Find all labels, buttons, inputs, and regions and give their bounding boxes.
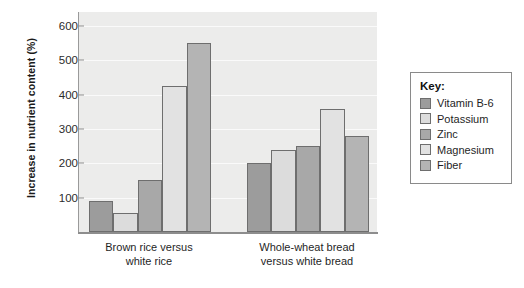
bar xyxy=(271,150,295,233)
y-tick-label: 100 xyxy=(59,192,78,204)
legend-swatch xyxy=(420,98,431,109)
legend-item: Magnesium xyxy=(420,144,503,156)
legend-item: Potassium xyxy=(420,113,503,125)
bar xyxy=(320,109,344,232)
y-tick-label: 200 xyxy=(59,157,78,169)
y-tick-label: 400 xyxy=(59,89,78,101)
chart-root: Increase in nutrient content (%) 1002003… xyxy=(0,0,524,288)
x-axis-group-label-line: versus white bread xyxy=(227,254,387,268)
gridline xyxy=(79,60,377,61)
bar xyxy=(247,163,271,232)
legend-title: Key: xyxy=(420,80,503,92)
bar xyxy=(187,43,211,232)
bar xyxy=(138,180,162,232)
legend-swatch xyxy=(420,144,431,155)
bar xyxy=(345,136,369,232)
legend-swatch xyxy=(420,129,431,140)
gridline xyxy=(79,26,377,27)
y-tick-label: 500 xyxy=(59,54,78,66)
bar xyxy=(89,201,113,232)
y-tick-mark xyxy=(78,197,84,198)
legend-label: Vitamin B-6 xyxy=(437,97,494,109)
y-tick-mark xyxy=(78,163,84,164)
legend-item: Vitamin B-6 xyxy=(420,97,503,109)
legend-item: Fiber xyxy=(420,159,503,171)
legend-label: Fiber xyxy=(437,159,462,171)
x-axis-group-label-line: Brown rice versus xyxy=(69,240,229,254)
legend-label: Magnesium xyxy=(437,144,494,156)
legend-label: Potassium xyxy=(437,113,488,125)
x-axis-group-label-line: Whole-wheat bread xyxy=(227,240,387,254)
x-axis-line xyxy=(78,232,378,234)
legend: Key: Vitamin B-6PotassiumZincMagnesiumFi… xyxy=(410,72,512,184)
legend-items: Vitamin B-6PotassiumZincMagnesiumFiber xyxy=(420,97,503,171)
legend-item: Zinc xyxy=(420,128,503,140)
bar xyxy=(296,146,320,232)
legend-swatch xyxy=(420,160,431,171)
x-axis-group-label-line: white rice xyxy=(69,254,229,268)
y-tick-mark xyxy=(78,60,84,61)
gridline xyxy=(79,95,377,96)
bar xyxy=(162,86,186,232)
legend-swatch xyxy=(420,113,431,124)
legend-label: Zinc xyxy=(437,128,458,140)
plot-area xyxy=(78,12,377,232)
x-axis-group-label: Brown rice versuswhite rice xyxy=(69,240,229,268)
y-tick-label: 600 xyxy=(59,20,78,32)
y-axis-title: Increase in nutrient content (%) xyxy=(25,13,37,223)
y-tick-mark xyxy=(78,25,84,26)
y-tick-mark xyxy=(78,94,84,95)
y-tick-mark xyxy=(78,128,84,129)
x-axis-group-label: Whole-wheat breadversus white bread xyxy=(227,240,387,268)
bar xyxy=(113,213,137,232)
y-tick-label: 300 xyxy=(59,123,78,135)
